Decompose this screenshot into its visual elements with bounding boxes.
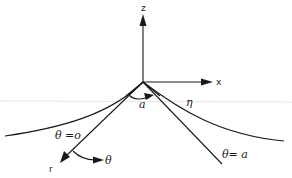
left-surface-curve (5, 82, 143, 136)
theta-zero-label: θ =o (55, 129, 81, 142)
theta-arc-arrowhead (93, 157, 104, 164)
r-ray-arrowhead (60, 151, 70, 163)
z-axis-arrowhead (140, 14, 147, 26)
theta-label: θ (105, 154, 112, 167)
eta-label: η (186, 96, 193, 109)
alpha-label: a (139, 98, 146, 111)
wedge-diagram: z x r a η θ θ =o θ= a (0, 0, 292, 178)
theta-a-label: θ= a (222, 148, 248, 161)
theta-arc (73, 151, 95, 160)
right-surface-curve (143, 82, 284, 141)
z-axis-label: z (141, 3, 146, 13)
reference-line (0, 101, 292, 102)
r-label: r (49, 164, 53, 174)
x-axis-label: x (216, 77, 222, 87)
r-ray (66, 82, 143, 156)
x-axis-arrowhead (201, 79, 213, 86)
